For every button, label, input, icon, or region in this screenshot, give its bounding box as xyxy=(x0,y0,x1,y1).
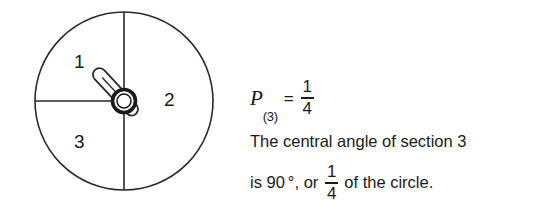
explanation-line-2-suffix: of the circle. xyxy=(344,173,433,192)
explanation-panel: P(3) = 1 4 The central angle of section … xyxy=(248,0,546,222)
probability-subscript: (3) xyxy=(263,110,278,123)
section-label-2: 2 xyxy=(164,90,175,109)
equals-sign: = xyxy=(284,89,294,109)
section-label-1: 1 xyxy=(74,52,85,71)
degree-symbol: ° xyxy=(288,173,295,192)
fraction-denominator: 4 xyxy=(326,185,337,203)
section-label-3: 3 xyxy=(74,132,85,151)
explanation-fraction: 1 4 xyxy=(325,163,338,203)
explanation-line-1: The central angle of section 3 xyxy=(250,132,466,151)
fraction-denominator: 4 xyxy=(302,100,313,118)
spinner-diagram xyxy=(0,0,240,222)
fraction-numerator: 1 xyxy=(326,163,337,181)
explanation-line-1-text: The central angle of section 3 xyxy=(250,132,466,151)
probability-equation: P(3) = 1 4 xyxy=(250,78,314,118)
explanation-line-2-middle: , or xyxy=(294,173,318,192)
probability-fraction: 1 4 xyxy=(301,78,314,118)
spinner-hub-center xyxy=(117,94,131,108)
explanation-line-2-prefix: is 90 xyxy=(250,173,285,192)
fraction-numerator: 1 xyxy=(302,78,313,96)
spinner-figure-panel: 1 2 3 xyxy=(0,0,240,222)
probability-variable: P xyxy=(250,88,263,109)
explanation-line-2: is 90 ° , or 1 4 of the circle. xyxy=(250,163,433,203)
